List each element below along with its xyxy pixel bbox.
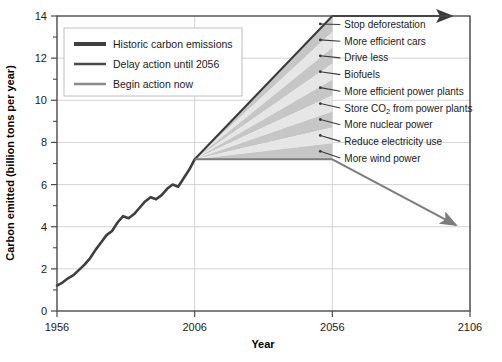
y-tick-label: 0	[41, 305, 47, 317]
stabilization-wedges-chart: 02468101214 1956200620562106 Stop defore…	[0, 0, 502, 362]
x-tick-label: 2006	[182, 321, 206, 333]
wedge-leader-dot	[319, 54, 322, 57]
wedge-leader-dot	[319, 150, 322, 153]
x-tick-label: 2056	[320, 321, 344, 333]
y-tick-label: 8	[41, 136, 47, 148]
y-tick-label: 10	[35, 94, 47, 106]
y-tick-label: 4	[41, 221, 47, 233]
wedge-label: More efficient power plants	[344, 86, 463, 97]
wedge-leader-dot	[319, 134, 322, 137]
chart-svg: 02468101214 1956200620562106 Stop defore…	[0, 0, 502, 362]
legend-label: Historic carbon emissions	[113, 38, 233, 50]
y-axis-title: Carbon emitted (billion tons per year)	[4, 65, 16, 261]
x-axis-title: Year	[251, 338, 275, 350]
wedge-label: More efficient cars	[344, 36, 426, 47]
legend-label: Delay action until 2056	[113, 58, 219, 70]
y-tick-labels: 02468101214	[35, 10, 47, 317]
chart-legend: Historic carbon emissionsDelay action un…	[64, 28, 242, 96]
x-tick-label: 2106	[458, 321, 482, 333]
y-tick-label: 12	[35, 52, 47, 64]
wedge-label: Biofuels	[344, 69, 380, 80]
y-tick-label: 2	[41, 263, 47, 275]
wedge-leader-dot	[319, 86, 322, 89]
wedge-label: Reduce electricity use	[344, 136, 442, 147]
x-tick-labels: 1956200620562106	[45, 321, 482, 333]
y-tick-label: 6	[41, 179, 47, 191]
wedge-leader-dot	[319, 70, 322, 73]
x-tick-label: 1956	[45, 321, 69, 333]
wedge-leader-dot	[319, 118, 322, 121]
wedge-label: More wind power	[344, 153, 421, 164]
wedge-label: Stop deforestation	[344, 19, 425, 30]
wedge-leader-dot	[319, 102, 322, 105]
wedge-leader-dot	[319, 23, 322, 26]
y-tick-label: 14	[35, 10, 47, 22]
wedge-label: Drive less	[344, 52, 388, 63]
wedge-leader-dot	[319, 38, 322, 41]
legend-label: Begin action now	[113, 78, 193, 90]
wedge-label: More nuclear power	[344, 119, 433, 130]
